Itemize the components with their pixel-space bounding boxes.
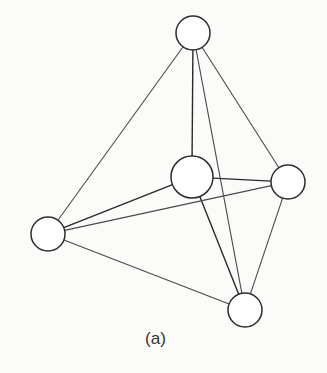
edge-middle-right	[213, 178, 271, 181]
edge-top-right	[202, 47, 279, 167]
edge-top-middle	[192, 50, 193, 156]
edge-left-right	[65, 186, 272, 231]
edge-left-bottom	[64, 240, 229, 304]
node-middle	[171, 156, 213, 198]
node-left	[31, 217, 65, 251]
node-bottom	[228, 293, 262, 327]
edge-right-bottom	[250, 198, 282, 294]
node-right	[271, 165, 305, 199]
graph-diagram	[0, 0, 327, 373]
figure-caption: (a)	[0, 329, 327, 349]
edge-middle-left	[64, 185, 173, 228]
edge-layer	[58, 47, 283, 304]
node-top	[176, 16, 210, 50]
edge-top-left	[58, 47, 183, 220]
